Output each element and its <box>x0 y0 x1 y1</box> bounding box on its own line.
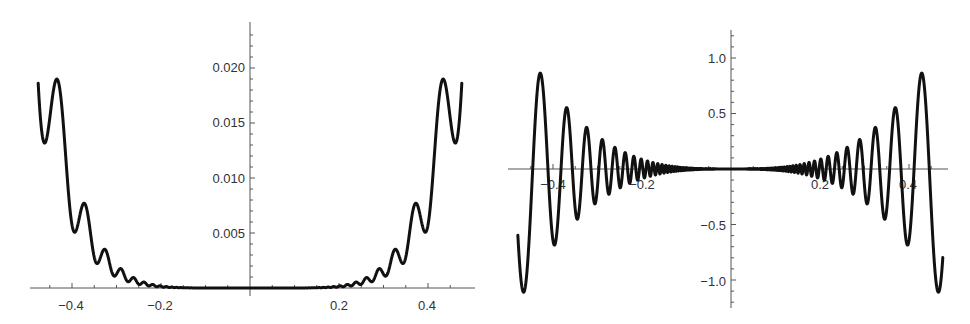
right-y-tick-label: 1.0 <box>708 51 726 66</box>
left-x-tick-label: 0.4 <box>418 298 436 313</box>
figure-canvas: −0.4 −0.2 0.2 0.4 0.005 0.010 0.015 0.02… <box>0 0 970 324</box>
left-y-tick-label: 0.005 <box>212 226 245 241</box>
left-x-tick-label: −0.2 <box>147 298 173 313</box>
left-y-tick-label: 0.020 <box>212 60 245 75</box>
right-y-tick-label: −0.5 <box>700 218 726 233</box>
left-y-tick-label: 0.010 <box>212 171 245 186</box>
left-x-tick-label: −0.4 <box>58 298 84 313</box>
left-x-tick-label: 0.2 <box>330 298 348 313</box>
right-x-tick-label: −0.2 <box>629 177 655 192</box>
right-y-tick-label: 0.5 <box>708 106 726 121</box>
left-y-tick-label: 0.015 <box>212 115 245 130</box>
left-plot: −0.4 −0.2 0.2 0.4 0.005 0.010 0.015 0.02… <box>30 22 475 313</box>
right-x-tick-label: −0.4 <box>540 177 566 192</box>
right-y-tick-label: −1.0 <box>700 274 726 289</box>
right-plot: −0.4 −0.2 0.2 0.4 −1.0 −0.5 0.5 1.0 <box>508 30 948 308</box>
right-data-curve <box>518 73 943 292</box>
